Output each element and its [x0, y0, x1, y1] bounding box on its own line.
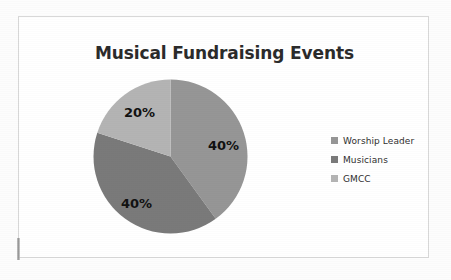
chart-legend: Worship Leader Musicians GMCC — [331, 131, 427, 188]
legend-swatch-icon-musicians — [331, 156, 338, 163]
legend-label-worship-leader: Worship Leader — [343, 136, 414, 146]
chart-frame: Musical Fundraising Events 40% 40% 20% W… — [18, 16, 429, 258]
scan-artifact-mark — [17, 238, 20, 260]
chart-title: Musical Fundraising Events — [19, 43, 430, 63]
legend-swatch-icon-worship-leader — [331, 137, 338, 144]
legend-item-gmcc[interactable]: GMCC — [331, 169, 427, 188]
pie-label-gmcc: 20% — [124, 105, 155, 120]
legend-item-musicians[interactable]: Musicians — [331, 150, 427, 169]
legend-label-gmcc: GMCC — [343, 174, 371, 184]
legend-item-worship-leader[interactable]: Worship Leader — [331, 131, 427, 150]
pie-plot-area: 40% 40% 20% — [83, 69, 258, 244]
legend-label-musicians: Musicians — [343, 155, 388, 165]
legend-swatch-icon-gmcc — [331, 175, 338, 182]
pie-chart-svg — [83, 69, 258, 244]
page-background: Musical Fundraising Events 40% 40% 20% W… — [0, 0, 451, 280]
pie-label-worship-leader: 40% — [208, 138, 239, 153]
pie-label-musicians: 40% — [121, 196, 152, 211]
